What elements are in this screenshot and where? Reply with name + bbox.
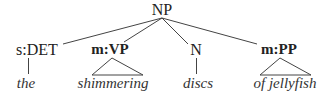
triangle-vp xyxy=(92,58,143,75)
node-np: NP xyxy=(152,2,172,18)
edge-np-pp xyxy=(162,18,257,44)
leaf-the: the xyxy=(17,76,35,91)
leaf-of-jellyfish: of jellyfish xyxy=(254,76,317,91)
node-m-vp: m:VP xyxy=(91,42,129,57)
edge-np-vp xyxy=(124,18,162,42)
node-m-pp: m:PP xyxy=(261,42,297,57)
leaf-discs: discs xyxy=(183,76,213,91)
syntax-tree: NP s:DET m:VP N m:PP the shimmering disc… xyxy=(0,0,327,102)
leaf-shimmering: shimmering xyxy=(78,76,149,91)
node-n: N xyxy=(190,42,202,58)
node-s-det: s:DET xyxy=(16,42,58,58)
triangle-pp xyxy=(260,58,311,75)
